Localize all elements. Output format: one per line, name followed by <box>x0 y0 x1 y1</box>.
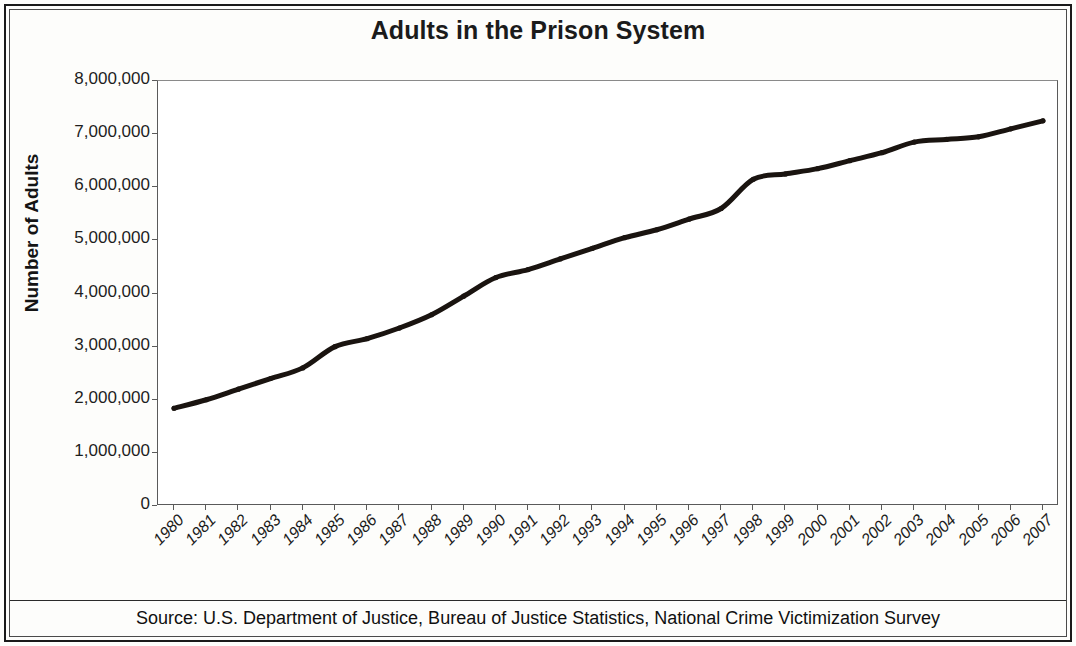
data-point <box>365 336 370 341</box>
x-axis-tick-labels: 1980198119821983198419851986198719881989… <box>157 505 1058 600</box>
x-axis-tick-mark <box>366 505 367 510</box>
x-axis-tick-mark <box>398 505 399 510</box>
x-axis-tick-mark <box>688 505 689 510</box>
y-axis-tick-labels: 8,000,0007,000,0006,000,0005,000,0004,00… <box>20 80 150 505</box>
x-axis-tick-mark <box>784 505 785 510</box>
x-axis-tick-mark <box>849 505 850 510</box>
x-axis-tick-mark <box>205 505 206 510</box>
x-axis-tick-mark <box>945 505 946 510</box>
chart-title: Adults in the Prison System <box>0 16 1076 45</box>
x-axis-tick-mark <box>720 505 721 510</box>
data-point <box>204 397 209 402</box>
data-point <box>944 137 949 142</box>
y-axis-tick-label: 7,000,000 <box>30 122 150 142</box>
x-axis-tick-mark <box>270 505 271 510</box>
y-axis-tick-label: 4,000,000 <box>30 282 150 302</box>
x-axis-tick-mark <box>752 505 753 510</box>
x-axis-tick-mark <box>334 505 335 510</box>
data-point <box>847 158 852 163</box>
data-point <box>590 246 595 251</box>
y-axis-tick-label: 1,000,000 <box>30 441 150 461</box>
data-point <box>300 365 305 370</box>
chart-page: Adults in the Prison System Number of Ad… <box>0 0 1076 646</box>
data-point <box>686 217 691 222</box>
data-point <box>751 177 756 182</box>
data-line-series <box>158 81 1059 506</box>
x-axis-tick-mark <box>1042 505 1043 510</box>
data-point <box>236 387 241 392</box>
data-point <box>815 166 820 171</box>
y-axis-tick-label: 5,000,000 <box>30 228 150 248</box>
x-axis-tick-mark <box>559 505 560 510</box>
data-point <box>493 275 498 280</box>
x-axis-tick-mark <box>881 505 882 510</box>
y-axis-tick-label: 2,000,000 <box>30 388 150 408</box>
data-point <box>268 376 273 381</box>
data-point <box>558 256 563 261</box>
y-axis-tick-label: 8,000,000 <box>30 69 150 89</box>
data-point <box>879 150 884 155</box>
x-axis-tick-mark <box>978 505 979 510</box>
x-axis-tick-mark <box>591 505 592 510</box>
data-point <box>429 312 434 317</box>
data-point <box>654 227 659 232</box>
data-point <box>783 171 788 176</box>
x-axis-tick-mark <box>302 505 303 510</box>
x-axis-tick-mark <box>527 505 528 510</box>
plot-area <box>157 80 1058 505</box>
data-point <box>397 325 402 330</box>
x-axis-tick-mark <box>173 505 174 510</box>
data-point <box>976 134 981 139</box>
data-point <box>332 344 337 349</box>
data-point <box>525 267 530 272</box>
x-axis-tick-mark <box>1010 505 1011 510</box>
data-point <box>1040 118 1045 123</box>
x-axis-tick-mark <box>817 505 818 510</box>
y-axis-tick-label: 0 <box>30 494 150 514</box>
data-point <box>622 235 627 240</box>
source-note: Source: U.S. Department of Justice, Bure… <box>0 608 1076 629</box>
x-axis-tick-mark <box>913 505 914 510</box>
y-axis-tick-label: 3,000,000 <box>30 335 150 355</box>
data-point <box>719 206 724 211</box>
x-axis-tick-mark <box>463 505 464 510</box>
y-axis-tick-label: 6,000,000 <box>30 175 150 195</box>
source-divider <box>10 600 1066 601</box>
x-axis-tick-mark <box>656 505 657 510</box>
data-point <box>1008 126 1013 131</box>
data-line <box>174 121 1043 408</box>
x-axis-tick-mark <box>431 505 432 510</box>
x-axis-tick-mark <box>495 505 496 510</box>
data-point <box>171 406 176 411</box>
data-point <box>912 139 917 144</box>
x-axis-tick-mark <box>624 505 625 510</box>
data-point <box>461 294 466 299</box>
x-axis-tick-mark <box>237 505 238 510</box>
